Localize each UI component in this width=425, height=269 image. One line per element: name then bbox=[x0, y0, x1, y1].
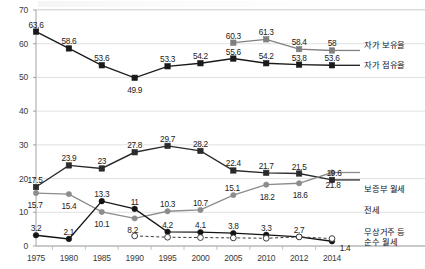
data-label: 13.3 bbox=[85, 189, 119, 199]
data-label: 17.5 bbox=[18, 175, 52, 185]
data-point-marker bbox=[165, 64, 170, 69]
data-point-marker bbox=[99, 198, 105, 204]
y-tick-40: 40 bbox=[2, 106, 28, 116]
data-point-marker bbox=[264, 182, 269, 187]
legend-label: 전세 bbox=[364, 203, 380, 215]
data-label: 4.2 bbox=[151, 220, 185, 230]
data-label: 1.4 bbox=[328, 243, 362, 253]
data-label: 28.2 bbox=[183, 139, 217, 149]
legend-label-secondary: 순수 월세 bbox=[364, 238, 405, 248]
data-point-marker bbox=[198, 61, 203, 66]
data-point-marker bbox=[33, 29, 38, 34]
data-point-marker bbox=[165, 229, 171, 235]
data-point-marker bbox=[264, 170, 269, 175]
legend-label: 자가 보유율 bbox=[364, 38, 405, 50]
x-tick-2014: 2014 bbox=[312, 253, 352, 263]
data-label: 10.7 bbox=[183, 198, 217, 208]
data-point-marker bbox=[230, 235, 236, 241]
data-label: 49.9 bbox=[118, 85, 152, 95]
data-label: 55.6 bbox=[216, 47, 250, 57]
data-point-marker bbox=[198, 235, 204, 241]
data-label: 2.1 bbox=[52, 227, 86, 237]
data-point-marker bbox=[263, 235, 269, 241]
data-label: 2.7 bbox=[282, 225, 316, 235]
data-label: 15.1 bbox=[215, 183, 249, 193]
data-label: 22.4 bbox=[216, 158, 250, 168]
data-point-marker bbox=[99, 209, 104, 214]
data-label: 18.6 bbox=[283, 190, 317, 200]
data-label: 3.8 bbox=[216, 221, 250, 231]
data-point-marker bbox=[198, 229, 204, 235]
legend-entry-3: 전세 bbox=[364, 203, 380, 215]
data-label: 18.2 bbox=[250, 192, 284, 202]
data-point-marker bbox=[296, 181, 301, 186]
data-label: 58.4 bbox=[282, 37, 316, 47]
data-point-marker bbox=[33, 184, 38, 189]
legend-label: 보증부 월세 bbox=[364, 182, 405, 194]
data-label: 4.1 bbox=[183, 220, 217, 230]
data-label: 3.2 bbox=[19, 223, 53, 233]
y-tick-30: 30 bbox=[2, 140, 28, 150]
chart-container: 010203040506070 197519801985199019952000… bbox=[0, 0, 425, 269]
data-label: 53.3 bbox=[151, 54, 185, 64]
data-label: 8.2 bbox=[116, 225, 150, 235]
data-point-marker bbox=[264, 37, 269, 42]
data-point-marker bbox=[165, 143, 170, 148]
data-label: 60.3 bbox=[216, 31, 250, 41]
y-tick-60: 60 bbox=[2, 39, 28, 49]
data-point-marker bbox=[296, 62, 301, 67]
data-label: 53.6 bbox=[315, 53, 349, 63]
data-label: 15.7 bbox=[18, 200, 52, 210]
data-point-marker bbox=[231, 40, 236, 45]
data-label: 21.8 bbox=[316, 180, 350, 190]
data-point-marker bbox=[231, 56, 236, 61]
data-label: 21.5 bbox=[282, 162, 316, 172]
data-point-marker bbox=[132, 206, 138, 212]
data-point-marker bbox=[296, 46, 301, 51]
data-label: 54.2 bbox=[249, 51, 283, 61]
legend-entry-0: 자가 보유율 bbox=[364, 38, 405, 50]
y-tick-50: 50 bbox=[2, 72, 28, 82]
data-label: 58.6 bbox=[52, 36, 86, 46]
data-label: 53.8 bbox=[282, 53, 316, 63]
data-label: 29.7 bbox=[151, 134, 185, 144]
data-label: 58 bbox=[315, 38, 349, 48]
data-point-marker bbox=[66, 236, 72, 242]
legend-entry-2: 보증부 월세 bbox=[364, 182, 405, 194]
y-tick-0: 0 bbox=[2, 241, 28, 251]
data-label: 63.6 bbox=[19, 20, 53, 30]
legend-label: 자가 점유율 bbox=[364, 58, 405, 70]
data-label: 21.7 bbox=[249, 161, 283, 171]
data-point-marker bbox=[165, 234, 171, 240]
data-point-marker bbox=[329, 236, 335, 242]
data-point-marker bbox=[99, 63, 104, 68]
data-point-marker bbox=[165, 209, 170, 214]
data-point-marker bbox=[198, 207, 203, 212]
data-label: 10.3 bbox=[151, 199, 185, 209]
data-point-marker bbox=[99, 166, 104, 171]
data-point-marker bbox=[198, 148, 203, 153]
data-point-marker bbox=[132, 150, 137, 155]
data-label: 11 bbox=[118, 197, 152, 207]
data-point-marker bbox=[66, 191, 71, 196]
data-point-marker bbox=[231, 168, 236, 173]
data-label: 27.8 bbox=[118, 140, 152, 150]
data-point-marker bbox=[66, 163, 71, 168]
data-label: 23 bbox=[85, 156, 119, 166]
legend-connectors bbox=[332, 50, 360, 179]
data-point-marker bbox=[264, 61, 269, 66]
data-label: 23.9 bbox=[52, 153, 86, 163]
data-label: 19.6 bbox=[317, 168, 351, 178]
data-label: 10.1 bbox=[85, 219, 119, 229]
data-point-marker bbox=[66, 46, 71, 51]
y-tick-70: 70 bbox=[2, 5, 28, 15]
data-label: 53.6 bbox=[85, 53, 119, 63]
data-point-marker bbox=[132, 75, 137, 80]
data-point-marker bbox=[231, 192, 236, 197]
data-point-marker bbox=[296, 171, 301, 176]
data-point-marker bbox=[33, 190, 38, 195]
data-label: 54.2 bbox=[183, 51, 217, 61]
data-point-marker bbox=[132, 216, 137, 221]
data-point-marker bbox=[33, 232, 39, 238]
data-label: 61.3 bbox=[249, 27, 283, 37]
